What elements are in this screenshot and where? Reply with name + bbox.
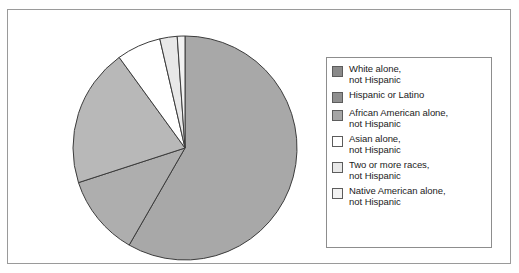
pie-chart-svg: [71, 34, 299, 262]
legend-swatch-icon: [332, 136, 343, 147]
legend-item-label: Two or more races, not Hispanic: [349, 160, 429, 181]
legend-item-label: White alone, not Hispanic: [349, 64, 401, 85]
legend-item: Hispanic or Latino: [332, 90, 487, 103]
legend-item: African American alone, not Hispanic: [332, 108, 487, 129]
pie-slice-group: [73, 36, 297, 260]
legend-swatch-icon: [332, 110, 343, 121]
legend-swatch-icon: [332, 66, 343, 77]
figure-canvas: White alone, not HispanicHispanic or Lat…: [0, 0, 519, 273]
legend-item: White alone, not Hispanic: [332, 64, 487, 85]
pie-chart: [71, 34, 299, 262]
legend-item-label: Native American alone, not Hispanic: [349, 186, 446, 207]
figure-frame: White alone, not HispanicHispanic or Lat…: [7, 9, 511, 264]
legend-item-label: African American alone, not Hispanic: [349, 108, 448, 129]
legend-item-list: White alone, not HispanicHispanic or Lat…: [332, 64, 487, 212]
legend-swatch-icon: [332, 188, 343, 199]
legend-item: Asian alone, not Hispanic: [332, 134, 487, 155]
legend-item: Native American alone, not Hispanic: [332, 186, 487, 207]
legend-swatch-icon: [332, 92, 343, 103]
chart-legend: White alone, not HispanicHispanic or Lat…: [326, 57, 492, 248]
legend-item-label: Hispanic or Latino: [349, 90, 424, 101]
legend-swatch-icon: [332, 162, 343, 173]
legend-item: Two or more races, not Hispanic: [332, 160, 487, 181]
legend-item-label: Asian alone, not Hispanic: [349, 134, 401, 155]
